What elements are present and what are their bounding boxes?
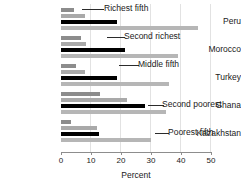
bar-kazakhstan-richest-fifth bbox=[61, 138, 151, 142]
x-tick-label-20: 20 bbox=[109, 156, 133, 165]
bar-morocco-richest-fifth bbox=[61, 54, 178, 58]
bar-kazakhstan-second-poorest bbox=[61, 126, 97, 130]
leader-line-second-richest bbox=[107, 37, 125, 38]
x-tick-label-0: 0 bbox=[49, 156, 73, 165]
leader-line-middle bbox=[119, 65, 139, 66]
annotation-richest-fifth: Richest fifth bbox=[104, 3, 148, 13]
annotation-poorest-fifth: Poorest fifth bbox=[168, 127, 213, 137]
bar-turkey-second-poorest bbox=[61, 70, 85, 74]
bar-kazakhstan-middle-fifth bbox=[61, 132, 99, 136]
bar-ghana-second-poorest bbox=[61, 98, 127, 102]
bar-peru-poorest-fifth bbox=[61, 8, 74, 12]
bar-morocco-second-poorest bbox=[61, 42, 86, 46]
bar-turkey-richest-fifth bbox=[61, 82, 169, 86]
x-axis-tick-40 bbox=[181, 152, 182, 155]
bar-ghana-richest-fifth bbox=[61, 110, 166, 114]
x-axis-tick-0 bbox=[61, 152, 62, 155]
annotation-second-poorest: Second poorest bbox=[162, 99, 222, 109]
x-axis-tick-10 bbox=[91, 152, 92, 155]
bar-kazakhstan-poorest-fifth bbox=[61, 120, 71, 124]
leader-line-richest bbox=[82, 9, 104, 10]
bar-turkey-middle-fifth bbox=[61, 76, 117, 80]
bar-peru-middle-fifth bbox=[61, 20, 117, 24]
x-tick-label-10: 10 bbox=[79, 156, 103, 165]
bar-morocco-poorest-fifth bbox=[61, 36, 81, 40]
x-axis-tick-50 bbox=[211, 152, 212, 155]
bar-ghana-middle-fifth bbox=[61, 104, 145, 108]
x-axis-line bbox=[61, 152, 211, 153]
x-tick-label-30: 30 bbox=[139, 156, 163, 165]
x-tick-label-50: 50 bbox=[199, 156, 223, 165]
bar-turkey-poorest-fifth bbox=[61, 64, 76, 68]
x-axis-tick-20 bbox=[121, 152, 122, 155]
bar-morocco-middle-fifth bbox=[61, 48, 125, 52]
leader-line-poorest bbox=[155, 133, 169, 134]
annotation-second-richest: Second richest bbox=[124, 31, 180, 41]
bar-chart: 0 10 20 30 40 50 Percent Peru Morocco Tu… bbox=[0, 0, 241, 188]
bar-peru-second-poorest bbox=[61, 14, 85, 18]
x-tick-label-40: 40 bbox=[169, 156, 193, 165]
category-label-peru: Peru bbox=[183, 16, 241, 26]
bar-ghana-poorest-fifth bbox=[61, 92, 100, 96]
category-label-morocco: Morocco bbox=[183, 44, 241, 54]
x-axis-tick-30 bbox=[151, 152, 152, 155]
bar-peru-richest-fifth bbox=[61, 26, 198, 30]
annotation-middle-fifth: Middle fifth bbox=[138, 59, 179, 69]
category-label-turkey: Turkey bbox=[183, 72, 241, 82]
x-axis-title: Percent bbox=[61, 170, 211, 180]
